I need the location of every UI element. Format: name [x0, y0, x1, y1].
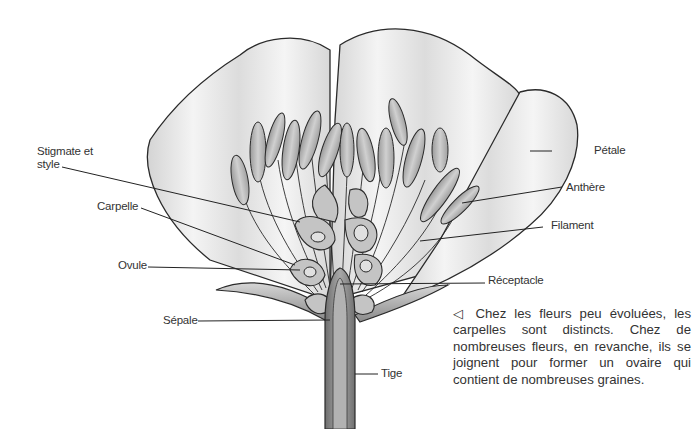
label-sepale: Sépale — [163, 314, 198, 327]
label-ovule: Ovule — [118, 259, 147, 272]
label-receptacle: Réceptacle — [488, 274, 544, 287]
label-stigmate-style: Stigmate et style — [37, 145, 103, 171]
caption-marker-icon: ◁ — [453, 306, 467, 321]
label-filament: Filament — [551, 219, 594, 232]
caption-text: Chez les fleurs peu évoluées, les carpel… — [453, 306, 691, 387]
caption: ◁ Chez les fleurs peu évoluées, les carp… — [453, 306, 691, 388]
stem-inner — [333, 278, 347, 429]
label-carpelle: Carpelle — [97, 200, 138, 213]
label-anthere: Anthère — [566, 181, 605, 194]
label-petale: Pétale — [594, 144, 625, 157]
label-tige: Tige — [381, 367, 402, 380]
